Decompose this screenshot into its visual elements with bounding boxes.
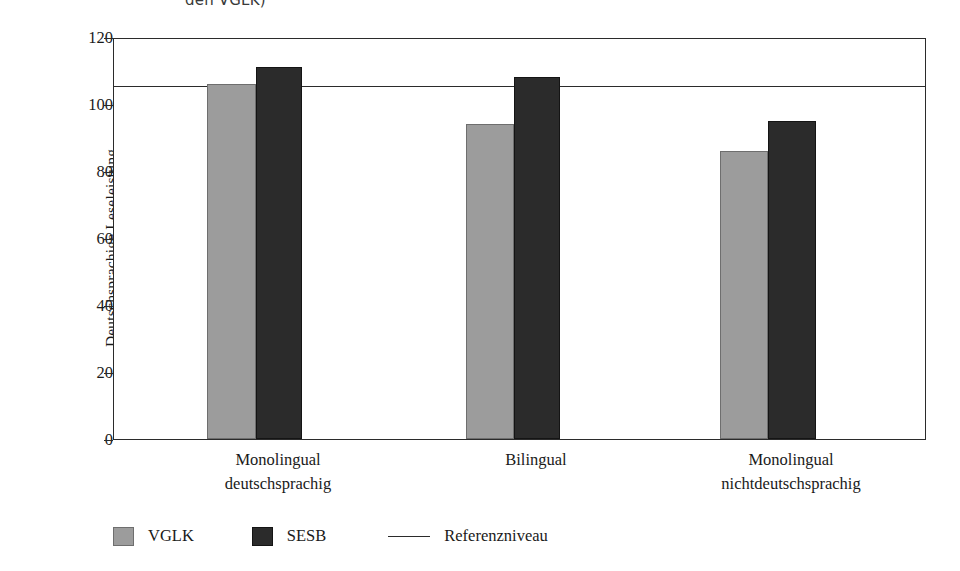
legend-label-vglk: VGLK (148, 526, 194, 546)
legend-item-vglk: VGLK (113, 526, 194, 546)
bar-sesb-monolingual-nichtdeutschsprachig (768, 121, 816, 439)
legend-swatch-vglk-icon (113, 527, 134, 546)
x-category-1-line2: deutschsprachig (143, 472, 413, 496)
x-category-3-line1: Monolingual (656, 448, 926, 472)
legend-item-sesb: SESB (252, 526, 326, 546)
y-tick-mark-60 (104, 239, 113, 240)
legend-label-sesb: SESB (287, 526, 326, 546)
x-category-3-line2: nichtdeutschsprachig (656, 472, 926, 496)
legend-item-reference: Referenzniveau (388, 526, 548, 546)
bar-sesb-monolingual-deutschsprachig (256, 67, 302, 439)
y-axis-ticks: 120 100 80 60 40 20 0 (0, 0, 113, 402)
y-tick-mark-20 (104, 373, 113, 374)
x-category-1: Monolingual deutschsprachig (143, 448, 413, 496)
y-tick-mark-40 (104, 306, 113, 307)
x-category-3: Monolingual nichtdeutschsprachig (656, 448, 926, 496)
x-category-1-line1: Monolingual (143, 448, 413, 472)
x-category-2: Bilingual (401, 448, 671, 472)
plot-area (113, 38, 926, 440)
bar-vglk-monolingual-deutschsprachig (207, 84, 256, 439)
bar-vglk-bilingual (466, 124, 514, 439)
bar-vglk-monolingual-nichtdeutschsprachig (720, 151, 768, 439)
x-category-2-line1: Bilingual (401, 448, 671, 472)
legend-label-reference: Referenzniveau (444, 526, 548, 546)
y-tick-mark-80 (104, 172, 113, 173)
y-tick-mark-100 (104, 105, 113, 106)
x-axis-category-labels: Monolingual deutschsprachig Bilingual Mo… (113, 448, 926, 510)
bar-sesb-bilingual (514, 77, 560, 439)
chart-legend: VGLK SESB Referenzniveau (113, 523, 548, 549)
y-tick-mark-0 (104, 440, 113, 441)
chart-figure: den VGLK) Deutschsprachige Leseleistung … (0, 0, 960, 571)
legend-swatch-sesb-icon (252, 527, 273, 546)
y-tick-mark-120 (104, 38, 113, 39)
legend-line-reference-icon (388, 536, 430, 537)
